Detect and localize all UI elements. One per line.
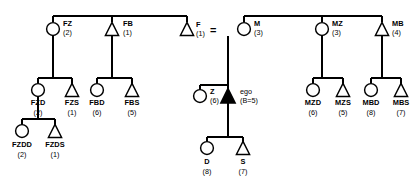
person-label-fbs: FBS	[124, 98, 139, 107]
person-label-f: F	[196, 20, 201, 29]
person-number-fzdd: (2)	[18, 150, 27, 159]
person-label-mzd: MZD	[305, 98, 322, 107]
person-symbol-fb[interactable]	[105, 22, 118, 35]
person-symbol-fzd[interactable]	[32, 84, 45, 97]
person-label-s: S	[240, 157, 245, 166]
person-number-mb: (4)	[392, 28, 401, 37]
person-symbol-mz[interactable]	[316, 23, 329, 36]
person-label-fbd: FBD	[89, 98, 105, 107]
person-symbol-mbd[interactable]	[365, 84, 378, 97]
person-symbol-fzds[interactable]	[48, 124, 61, 137]
ego-birth-order: (B=5)	[240, 96, 258, 105]
person-label-fzdd: FZDD	[12, 140, 33, 149]
person-number-fzd: (2)	[34, 108, 43, 117]
person-symbol-fzdd[interactable]	[16, 125, 29, 138]
person-symbol-s[interactable]	[236, 141, 249, 154]
person-label-mz: MZ	[332, 19, 343, 28]
person-symbol-mb[interactable]	[375, 22, 388, 35]
person-label-fzs: FZS	[65, 98, 79, 107]
person-label-fb: FB	[123, 19, 133, 28]
person-label-d: D	[204, 157, 210, 166]
marriage-symbol: =	[210, 24, 216, 36]
ego-label: ego	[240, 87, 252, 96]
kinship-diagram: FZ (2) FB (1) F (1) = M (3) MZ (3) MB (4…	[0, 0, 418, 182]
person-symbol-m[interactable]	[238, 23, 251, 36]
person-symbol-fbs[interactable]	[125, 83, 138, 96]
person-number-z: (6)	[210, 96, 219, 105]
person-number-mbs: (7)	[397, 108, 406, 117]
person-number-mbd: (8)	[367, 108, 376, 117]
person-symbol-mzs[interactable]	[336, 83, 349, 96]
person-label-mbd: MBD	[362, 98, 380, 107]
person-label-z: Z	[210, 87, 215, 96]
person-label-mb: MB	[392, 19, 404, 28]
person-symbol-ego[interactable]	[221, 89, 235, 104]
person-label-mzs: MZS	[335, 98, 351, 107]
person-symbol-z[interactable]	[194, 90, 207, 103]
person-label-fzd: FZD	[31, 98, 46, 107]
person-label-fz: FZ	[63, 19, 73, 28]
person-number-f: (1)	[196, 29, 205, 38]
person-number-fbd: (6)	[93, 108, 102, 117]
person-number-fbs: (5)	[128, 108, 137, 117]
person-label-mbs: MBS	[393, 98, 410, 107]
person-number-fzs: (1)	[68, 108, 77, 117]
person-number-d: (8)	[203, 167, 212, 176]
person-symbol-f[interactable]	[180, 22, 193, 35]
person-number-mzs: (5)	[339, 108, 348, 117]
person-symbol-mzd[interactable]	[307, 84, 320, 97]
person-label-fzds: FZDS	[45, 140, 65, 149]
person-symbol-fbd[interactable]	[91, 84, 104, 97]
person-number-m: (3)	[254, 28, 263, 37]
person-symbol-fzs[interactable]	[65, 83, 78, 96]
person-symbol-mbs[interactable]	[394, 83, 407, 96]
person-number-mz: (3)	[332, 28, 341, 37]
person-number-fb: (1)	[123, 28, 132, 37]
person-symbol-fz[interactable]	[47, 23, 60, 36]
person-label-m: M	[254, 19, 260, 28]
person-number-s: (7)	[239, 167, 248, 176]
kinship-diagram-canvas: FZ (2) FB (1) F (1) = M (3) MZ (3) MB (4…	[0, 0, 418, 182]
person-number-mzd: (6)	[309, 108, 318, 117]
person-number-fz: (2)	[63, 28, 72, 37]
person-number-fzds: (1)	[51, 150, 60, 159]
person-symbol-d[interactable]	[201, 142, 214, 155]
